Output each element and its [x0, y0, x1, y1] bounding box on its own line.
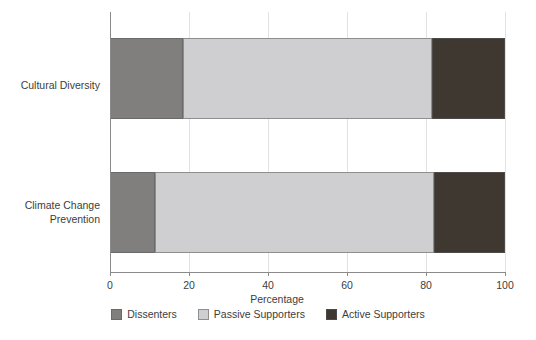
x-tick-mark [347, 272, 348, 276]
category-label-cultural-diversity: Cultural Diversity [0, 79, 100, 93]
legend-swatch-icon [198, 309, 209, 320]
x-tick-label: 20 [169, 279, 209, 291]
legend-item-dissenters[interactable]: Dissenters [111, 308, 177, 320]
x-tick-label: 80 [406, 279, 446, 291]
x-tick-label: 60 [327, 279, 367, 291]
x-tick-mark [426, 272, 427, 276]
x-axis-title: Percentage [0, 293, 536, 305]
legend-label: Passive Supporters [214, 308, 305, 320]
plot-area [110, 12, 505, 272]
legend-swatch-icon [111, 309, 122, 320]
chart-legend: DissentersPassive SupportersActive Suppo… [0, 308, 536, 320]
x-tick-label: 0 [90, 279, 130, 291]
legend-swatch-icon [326, 309, 337, 320]
x-tick-mark [189, 272, 190, 276]
bar-segment-dissenters [110, 38, 183, 119]
category-label-climate-change-prevention: Climate Change Prevention [0, 199, 100, 226]
x-tick-label: 40 [248, 279, 288, 291]
legend-label: Dissenters [127, 308, 177, 320]
legend-item-passive-supporters[interactable]: Passive Supporters [198, 308, 305, 320]
y-axis-line [110, 12, 111, 273]
legend-label: Active Supporters [342, 308, 425, 320]
x-tick-mark [110, 272, 111, 276]
bar-row [110, 172, 505, 253]
bar-segment-passive-supporters [183, 38, 432, 119]
bar-segment-dissenters [110, 172, 155, 253]
bar-segment-active-supporters [434, 172, 505, 253]
x-axis-line [110, 272, 506, 273]
x-tick-label: 100 [485, 279, 525, 291]
x-tick-mark [505, 272, 506, 276]
stacked-bar-chart: Cultural Diversity Climate Change Preven… [0, 0, 536, 340]
bar-segment-passive-supporters [155, 172, 433, 253]
bar-row [110, 38, 505, 119]
bar-segment-active-supporters [432, 38, 505, 119]
x-tick-mark [268, 272, 269, 276]
gridline [505, 12, 506, 272]
legend-item-active-supporters[interactable]: Active Supporters [326, 308, 425, 320]
x-axis-title-text: Percentage [250, 293, 304, 305]
